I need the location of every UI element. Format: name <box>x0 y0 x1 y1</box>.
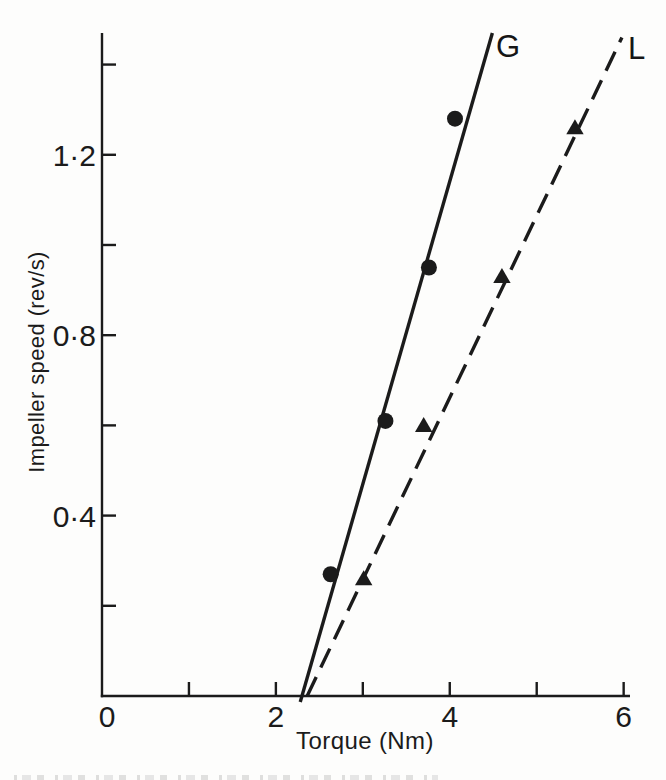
cropped-caption-fragment <box>14 775 438 780</box>
series-L-point <box>415 417 432 432</box>
series-G-point <box>323 566 339 582</box>
x-tick-label: 0 <box>99 700 116 733</box>
x-axis-title: Torque (Nm) <box>296 727 434 755</box>
series-G-point <box>421 260 437 276</box>
series-L-point <box>493 268 510 283</box>
y-tick-label: 1·2 <box>53 139 96 172</box>
x-tick-label: 6 <box>615 700 632 733</box>
y-axis-title: Impeller speed (rev/s) <box>24 251 50 473</box>
y-tick-label: 0·4 <box>53 500 96 533</box>
series-G-point <box>447 111 463 127</box>
series-G-point <box>377 413 393 429</box>
series-label-G: G <box>496 31 520 62</box>
series-label-L: L <box>628 33 645 64</box>
y-tick-label: 0·8 <box>53 319 96 352</box>
series-L-trend-line <box>307 38 622 696</box>
x-tick-label: 4 <box>441 700 458 733</box>
series-L-point <box>355 570 372 585</box>
x-tick-label: 2 <box>268 700 285 733</box>
